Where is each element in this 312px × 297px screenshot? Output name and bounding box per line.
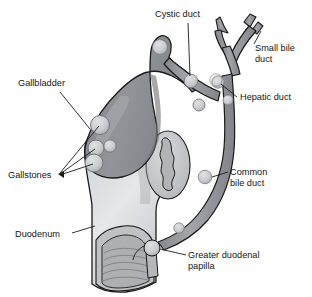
gallstone (104, 140, 116, 152)
gallstone (88, 140, 104, 156)
cystic-duct-gallstone (193, 99, 205, 111)
duct-gallstone (198, 170, 212, 184)
label-gallbladder: Gallbladder (18, 78, 65, 88)
label-gallstones: Gallstones (8, 170, 52, 180)
leader-cystic-duct (188, 23, 190, 76)
gallbladder-neck-gallstone (153, 40, 168, 55)
papilla-nub (144, 240, 160, 256)
label-duodenum: Duodenum (15, 229, 60, 239)
label-cystic-duct: Cystic duct (155, 9, 200, 19)
duodenum-inner-wall (102, 235, 149, 288)
anatomy-illustration: Cystic duct Small bile duct Hepatic duct… (0, 0, 312, 297)
duct-gallstone (223, 95, 233, 105)
duct-gallstone (212, 76, 224, 88)
gallstone (85, 154, 103, 172)
label-common-bile-duct: Common bile duct (230, 167, 270, 188)
small-bile-duct-branch-right (244, 14, 256, 27)
biliary-tract-figure: Cystic duct Small bile duct Hepatic duct… (0, 0, 312, 297)
duct-gallstone (174, 223, 184, 233)
label-greater-duodenal-papilla: Greater duodenal papilla (188, 250, 262, 271)
label-hepatic-duct: Hepatic duct (240, 92, 292, 102)
leader-gallbladder (60, 92, 90, 129)
leader-greater-duodenal-papilla (160, 249, 186, 255)
cystic-duct-gallstone (184, 74, 198, 88)
label-small-bile-duct: Small bile duct (255, 43, 297, 64)
gallstone (91, 116, 110, 135)
